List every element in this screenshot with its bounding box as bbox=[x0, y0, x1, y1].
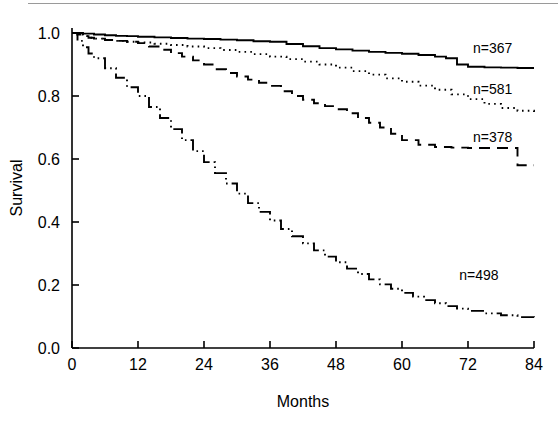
x-tick-label-0: 0 bbox=[68, 356, 77, 373]
x-tick-label-12: 12 bbox=[129, 356, 147, 373]
survival-plot-svg: 012243648607284 0.00.20.40.60.81.0 Month… bbox=[0, 0, 559, 422]
x-tick-label-24: 24 bbox=[195, 356, 213, 373]
y-tick-label-1.0: 1.0 bbox=[38, 25, 60, 42]
y-tick-label-0.2: 0.2 bbox=[38, 277, 60, 294]
label-498: n=498 bbox=[459, 267, 499, 283]
label-581: n=581 bbox=[473, 81, 513, 97]
x-axis-tick-labels: 012243648607284 bbox=[68, 356, 543, 373]
survival-chart-figure: 012243648607284 0.00.20.40.60.81.0 Month… bbox=[0, 0, 559, 422]
y-axis-tick-labels: 0.00.20.40.60.81.0 bbox=[38, 25, 60, 357]
scan-artifact-line bbox=[28, 3, 558, 4]
y-tick-label-0.6: 0.6 bbox=[38, 151, 60, 168]
x-axis-ticks bbox=[72, 341, 534, 348]
survival-curve-378 bbox=[72, 33, 534, 165]
x-tick-label-36: 36 bbox=[261, 356, 279, 373]
label-378: n=378 bbox=[473, 129, 513, 145]
x-tick-label-60: 60 bbox=[393, 356, 411, 373]
y-axis-ticks bbox=[72, 33, 79, 348]
x-axis-title: Months bbox=[277, 393, 329, 410]
y-tick-label-0.8: 0.8 bbox=[38, 88, 60, 105]
axis-lines bbox=[72, 28, 534, 348]
series-annotation-labels: n=367n=581n=378n=498 bbox=[459, 40, 512, 283]
label-367: n=367 bbox=[473, 40, 513, 56]
y-tick-label-0.4: 0.4 bbox=[38, 214, 60, 231]
x-tick-label-72: 72 bbox=[459, 356, 477, 373]
x-tick-label-48: 48 bbox=[327, 356, 345, 373]
survival-curve-367 bbox=[72, 33, 534, 68]
y-tick-label-0.0: 0.0 bbox=[38, 340, 60, 357]
y-axis-title: Survival bbox=[8, 160, 25, 217]
x-tick-label-84: 84 bbox=[525, 356, 543, 373]
